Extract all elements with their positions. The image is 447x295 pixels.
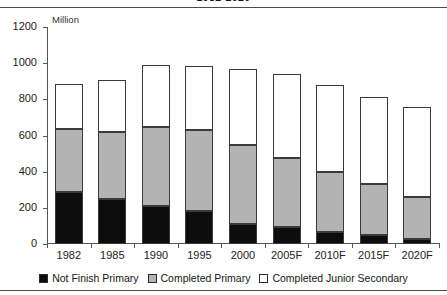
x-axis-label: 2010F [308,249,352,261]
gray-swatch [148,274,157,283]
bar-series-container [47,27,439,244]
bar-segment [273,158,301,227]
black-swatch [39,274,48,283]
bar-segment [273,227,301,244]
bar-segment [316,85,344,172]
y-axis-tick-label: 400 [0,165,37,177]
x-axis-labels: 198219851990199520002005F2010F2015F2020F [47,249,439,265]
bar-segment [403,107,431,197]
x-axis-label: 1985 [91,249,135,261]
bar-segment [55,192,83,244]
x-axis-label: 2020F [395,249,439,261]
chart-title-clip: 1982-2020 [0,0,447,7]
x-axis-label: 2005F [265,249,309,261]
y-axis-unit-label: Million [52,14,79,25]
legend-item: Completed Junior Secondary [259,272,407,284]
chart-figure: 1982-2020 Million 020040060080010001200 … [0,0,447,295]
legend-item-label: Completed Junior Secondary [272,272,407,284]
bar-group [55,84,83,244]
bar-group [98,80,126,244]
y-axis-tick-label: 200 [0,201,37,213]
y-axis-tick-label: 600 [0,129,37,141]
x-axis-tick [439,243,440,248]
bar-group [142,65,170,244]
bar-group [185,66,213,244]
bar-group [316,85,344,244]
bar-segment [360,184,388,235]
bar-segment [316,232,344,244]
bar-segment [229,145,257,225]
bar-segment [142,127,170,206]
y-axis-tick-label: 1200 [0,20,37,32]
bar-segment [185,130,213,211]
bar-segment [98,199,126,244]
bar-group [360,97,388,244]
bar-segment [185,211,213,244]
bar-group [403,107,431,244]
x-axis-label: 1990 [134,249,178,261]
bar-segment [185,66,213,130]
bar-segment [55,129,83,192]
legend-item-label: Not Finish Primary [52,272,138,284]
y-axis-tick-label: 1000 [0,56,37,68]
bar-segment [142,65,170,127]
bar-group [229,69,257,244]
y-axis-tick-label: 0 [0,237,37,249]
bar-segment [360,97,388,185]
bar-segment [98,132,126,199]
x-axis-label: 1995 [178,249,222,261]
figure-bottom-rule [0,290,447,291]
x-axis-label: 1982 [47,249,91,261]
legend-item: Not Finish Primary [39,272,138,284]
y-axis-tick-label: 800 [0,92,37,104]
bar-segment [229,224,257,244]
bar-segment [142,206,170,244]
chart-title: 1982-2020 [0,0,447,3]
figure-top-rule [0,7,447,8]
chart-legend: Not Finish PrimaryCompleted PrimaryCompl… [0,272,447,284]
bar-segment [229,69,257,145]
bar-group [273,74,301,244]
x-axis-label: 2000 [221,249,265,261]
legend-item-label: Completed Primary [161,272,251,284]
plot-area: 020040060080010001200 [47,27,439,244]
legend-item: Completed Primary [148,272,251,284]
bar-segment [403,239,431,244]
x-axis-label: 2015F [352,249,396,261]
bar-segment [55,84,83,129]
bar-segment [316,172,344,233]
bar-segment [360,235,388,244]
bar-segment [273,74,301,158]
bar-segment [98,80,126,132]
white-swatch [259,274,268,283]
bar-segment [403,197,431,239]
